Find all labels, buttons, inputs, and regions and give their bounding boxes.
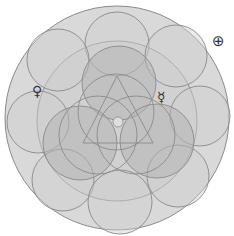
earth-symbol-icon: ⊕	[212, 34, 225, 49]
venus-symbol-icon: ♀	[32, 84, 42, 98]
geometric-circle-diagram: ♀ ☿ ⊕	[0, 0, 234, 236]
center-small-circle	[113, 117, 123, 127]
ring-circle	[88, 170, 152, 234]
ring-circle	[27, 29, 89, 91]
mercury-symbol-icon: ☿	[157, 90, 166, 104]
diagram-canvas	[0, 0, 234, 236]
